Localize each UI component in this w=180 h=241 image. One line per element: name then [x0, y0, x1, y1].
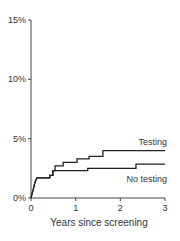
x-axis-ticks: 0123: [28, 198, 167, 213]
axes: [31, 20, 165, 198]
y-tick-label: 10%: [8, 74, 26, 84]
x-tick-label: 2: [118, 203, 123, 213]
y-axis-ticks: 0%5%10%15%: [8, 15, 31, 203]
series-label-no-testing: No testing: [126, 174, 167, 184]
x-axis-label: Years since screening: [50, 217, 147, 228]
y-tick-label: 5%: [13, 134, 26, 144]
cumulative-incidence-chart: 0%5%10%15% 0123 Years since screening Te…: [0, 0, 180, 241]
x-tick-label: 3: [162, 203, 167, 213]
y-tick-label: 0%: [13, 193, 26, 203]
series-label-testing: Testing: [138, 137, 167, 147]
y-tick-label: 15%: [8, 15, 26, 25]
x-tick-label: 0: [28, 203, 33, 213]
x-tick-label: 1: [73, 203, 78, 213]
